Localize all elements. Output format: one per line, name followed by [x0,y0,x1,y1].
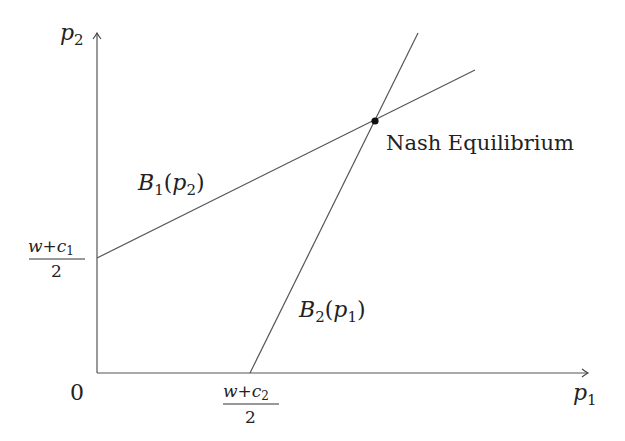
best-response-diagram: p2 p1 0 w+c1 2 w+c2 2 B1(p2) B2(p1) Nash… [0,0,625,441]
nash-equilibrium-label: Nash Equilibrium [386,131,574,155]
b2-best-response-line [250,33,418,373]
b1-best-response-line [97,70,475,258]
y-axis-label: p2 [60,20,84,49]
origin-label: 0 [70,380,84,405]
y-intercept-label: w+c1 2 [28,236,85,281]
x-intercept-label: w+c2 2 [223,381,279,427]
b1-label: B1(p2) [137,170,205,199]
svg-text:w+c2: w+c2 [223,381,269,403]
x-axis-label: p1 [573,380,597,409]
svg-text:2: 2 [51,261,62,281]
nash-equilibrium-point [371,117,378,124]
b2-label: B2(p1) [298,297,366,326]
svg-text:2: 2 [245,407,256,427]
svg-text:w+c1: w+c1 [28,236,74,258]
